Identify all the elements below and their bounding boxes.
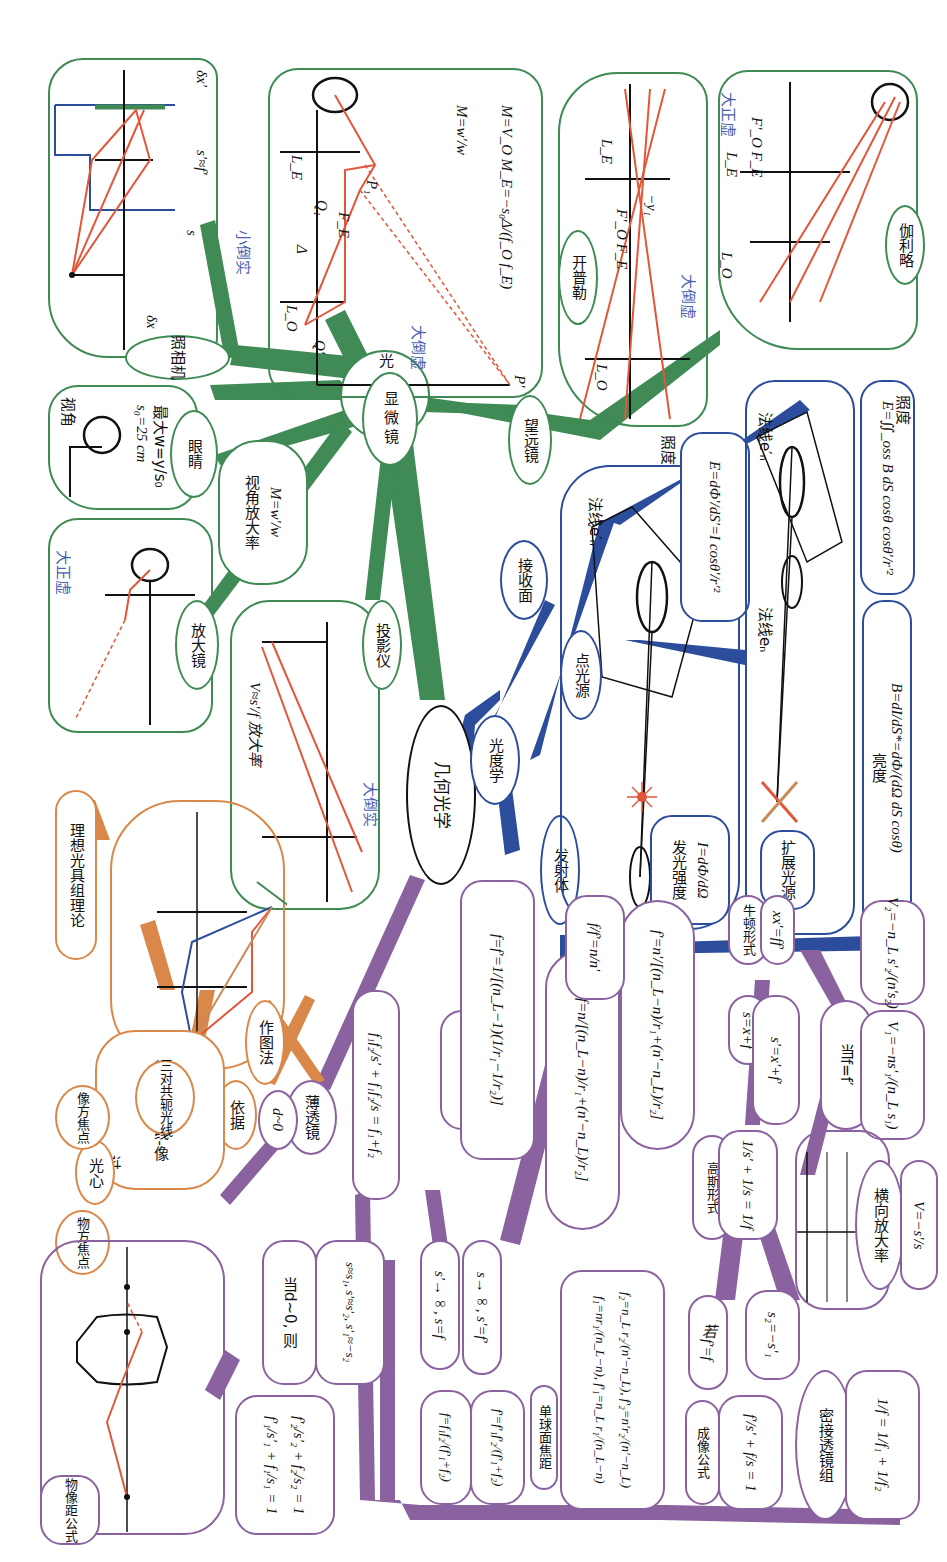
microscope-formula-2: M=V_O M_E=−s₀Δ/(f_O f_E) [498,105,515,289]
single-surface-node[interactable]: f₁=nr₁/(n_L−n), f′₁=n_L r₁/(n_L−n) f₂=n_… [560,1270,665,1510]
camera-s: s [183,230,200,236]
contact-node[interactable]: 1/f = 1/f₁ + 1/f₂ [845,1370,920,1520]
microscope-q-prime: Q′ [311,340,328,354]
camera-label: 照相机 [168,335,187,380]
single-surface-label-node[interactable]: 单球面焦距 [530,1385,558,1490]
three-pairs-node[interactable]: 三对共轭光线 [135,1060,195,1135]
imaging-formula-node[interactable]: f′/s′ + f/s = 1 [718,1395,783,1510]
camera-panel: s′≈f′ δx′ s δx 小倒实 [48,58,218,358]
v2-formula: V₂=−n_L s′₂/(n′s₂) [883,897,902,1009]
lensmaker-formula-node[interactable]: f=f′=1/[(n_L−1)(1/r₁−1/r₂)] [460,880,535,1160]
microscope-p1: P₁ [363,180,380,194]
keplerian-node[interactable]: 开普勒 [558,230,598,325]
illuminance-extended-label: 照度 [894,395,915,425]
lateral-label: 横向放大率 [871,1188,890,1263]
microscope-node[interactable]: 显微镜 [362,372,418,466]
if-equal: 若f′=f [699,1324,718,1361]
eye-visual-angle-title: 视角 [59,397,80,427]
angular-magnification-node[interactable]: 视角放大率 M=w′/w [218,440,308,585]
keplerian-image-type: 大倒虚 [679,274,700,319]
d-approx-node[interactable]: d~0 [258,1090,298,1150]
s-prime-eq-node[interactable]: s′=x′+f′ [752,995,800,1125]
brightness-node[interactable]: 亮度 B=dI/dS*=dΦ/(dΩ dS cosθ) [862,600,912,935]
microscope-panel: L_E L_O Q₁ P₁ F_E Δ Q′ P′ 大倒虚 M=w′/w M=V… [268,68,543,398]
extended-normal-1: 法线eₙ [756,607,777,652]
microscope-formula-1: M=w′/w [453,105,470,155]
newton-node[interactable]: xx′=ff′ [760,895,795,965]
object-image-distance-node[interactable]: 物像距公式 [40,1475,100,1545]
focal-f-prime: f′=f′₁f′₂/(f′₁+f₂) [489,1409,505,1486]
focal-f-node[interactable]: f=f₁f₂/(f′₁+f₂) [420,1390,472,1505]
lateral-formula: V=−s′/s [910,1201,929,1250]
photometry-hub[interactable]: 光度学 [470,715,520,805]
point-source-label: 点光源 [572,653,591,698]
d-approx-label: d~0 [269,1108,288,1131]
focal-f: f=f₁f₂/(f′₁+f₂) [438,1413,454,1482]
point-source-node[interactable]: 点光源 [560,630,602,720]
illuminance-point-node[interactable]: E=dΦ′/dS′=I cosθ′/r′² [680,432,750,622]
s-prime-eq: s′=x′+f′ [767,1037,786,1084]
basis-label: 依据 [227,1100,246,1130]
galilean-diagram [720,72,920,352]
root-node[interactable]: 几何光学 [406,705,476,885]
lateral-formula-node[interactable]: V=−s′/s [900,1160,938,1290]
ratio-node[interactable]: f/f′=n/n′ [565,895,625,1000]
f-prime-formula-node[interactable]: f′=n′/[(n_L−n)/r₁+(n′−n_L)/r₂] [620,900,695,1150]
keplerian-fo-fe: F′_O F_E [613,209,630,269]
focal-f-prime-node[interactable]: f′=f′₁f′₂/(f′₁+f₂) [470,1390,525,1505]
ideal-system-title-label: 理想光具组理论 [67,823,86,928]
combined-formula-node[interactable]: f₁f₂/s′ + f₁f₂/s = f₁+f₂ [352,990,400,1200]
magnifier-label: 放大镜 [188,623,207,668]
magnifier-node[interactable]: 放大镜 [175,600,219,690]
microscope-q1: Q₁ [313,200,330,216]
camera-node[interactable]: 照相机 [125,335,230,380]
imaging-formula-label-node[interactable]: 成像公式 [685,1400,720,1505]
contact-label: 密接透镜组 [816,1408,835,1483]
receiver-node[interactable]: 接收面 [500,540,548,620]
newton-formula: xx′=ff′ [768,911,787,949]
illuminance-point-formula: E=dΦ′/dS′=I cosθ′/r′² [706,461,725,592]
optical-center-label: 光心 [86,1158,105,1188]
galilean-lo: L_O [718,252,735,279]
lateral-node[interactable]: 横向放大率 [855,1160,905,1290]
imaging-formula: f′/s′ + f/s = 1 [741,1414,760,1492]
camera-diagram [50,60,220,360]
magnifier-image-type: 大正虚 [54,550,75,595]
v2-node[interactable]: V₂=−n_L s′₂/(n′s₂) [860,900,925,1005]
point-source-normal: 法线e′ₙ [586,497,607,546]
telescope-node[interactable]: 望远镜 [508,395,552,485]
brightness-formula: B=dI/dS*=dΦ/(dΩ dS cosθ) [887,683,906,853]
ideal-system-title[interactable]: 理想光具组理论 [55,790,97,960]
keplerian-label: 开普勒 [569,255,588,300]
gaussian-formula: 1/s′ + 1/s = 1/f [739,1140,758,1229]
projector-formula: V≈s′/f 放大率 [246,682,267,766]
galilean-fo-fe: F′_O F_E [748,117,765,177]
when-d-zero-node[interactable]: 当d~0, 则 [262,1240,317,1385]
lensmaker-formula: f=f′=1/[(n_L−1)(1/r₁−1/r₂)] [488,934,507,1106]
eye-max-w: 最大w=y/s₀ [151,405,172,488]
distance-equations-node[interactable]: f′₁/s′₁ + f₁/s₁ = 1 f′₂/s′₂ + f₂/s₂ = 1 [235,1395,335,1535]
eye-node[interactable]: 眼睛 [170,410,218,498]
camera-dx-prime: δx′ [193,70,210,87]
construction-node[interactable]: 作图法 [245,1000,285,1085]
newton-label: 牛顿形式 [740,904,756,956]
projector-node[interactable]: 投影仪 [362,600,402,690]
s-inf: s→∞, s′=f′ [473,1272,492,1343]
gaussian-node[interactable]: 1/s′ + 1/s = 1/f [718,1130,778,1240]
galilean-node[interactable]: 伽利略 [885,205,925,285]
approx-node[interactable]: s≈s₁, s′≈s′₂, s′₁≈−s₂ [315,1240,385,1385]
s-prime-inf-node[interactable]: s′→∞, s=f [420,1240,460,1370]
three-pairs-label: 三对共轭光线 [157,1059,173,1137]
receiver-label: 接收面 [515,558,534,603]
intensity-label: 发光强度 [668,840,687,900]
object-image-distance-label: 物像距公式 [62,1478,78,1543]
distance-eq-2: f′₂/s′₂ + f₂/s₂ = 1 [289,1416,308,1515]
image-focus-node[interactable]: 像方焦点 [55,1085,110,1150]
ratio-formula: f/f′=n/n′ [586,923,605,971]
v1-node[interactable]: V₁=−ns′₁/(n_L s₁) [860,1010,925,1140]
s2-eq-node[interactable]: s₂=−s′₁ [745,1290,800,1380]
if-equal-node[interactable]: 若f′=f [688,1295,728,1390]
illuminance-extended-formula: E=∬_oss B dS cosθ cosθ′/r′² [878,401,897,575]
v1-formula: V₁=−ns′₁/(n_L s₁) [883,1021,902,1130]
s-inf-node[interactable]: s→∞, s′=f′ [462,1240,502,1375]
